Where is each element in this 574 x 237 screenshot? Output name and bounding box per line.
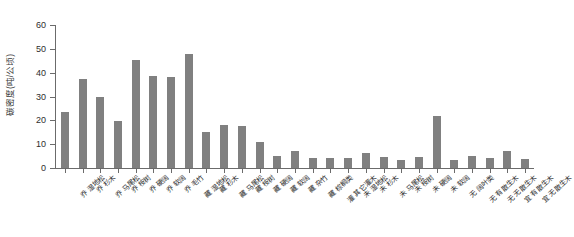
x-axis-tick-mark	[401, 169, 402, 173]
bar	[326, 158, 334, 168]
x-axis-tick-mark	[437, 169, 438, 173]
bar	[220, 125, 228, 168]
y-axis-tick-label: 20	[36, 115, 46, 125]
x-axis-tick-mark	[277, 169, 278, 173]
y-axis-tick-labels: 0102030405060	[18, 20, 50, 172]
bar	[309, 158, 317, 168]
x-axis-tick-mark	[384, 169, 385, 173]
bar	[202, 132, 210, 168]
bar	[380, 157, 388, 168]
x-axis-tick-mark	[295, 169, 296, 173]
x-axis-tick-mark	[490, 169, 491, 173]
y-axis-tick-mark	[50, 168, 55, 169]
bar	[415, 157, 423, 168]
y-axis-title: 碳密度(吨/公顷)	[0, 0, 18, 170]
x-axis-tick-mark	[224, 169, 225, 173]
y-axis-tick-mark	[50, 97, 55, 98]
x-axis-tick-mark	[366, 169, 367, 173]
bar	[238, 126, 246, 168]
bar	[132, 60, 140, 168]
y-axis-tick-mark	[50, 73, 55, 74]
x-axis-tick-labels: 乔 湿地松乔 杉木乔 马尾松乔 桉树乔 硬阔乔 软阔乔 毛竹藏 湿地松藏 杉木藏…	[0, 170, 542, 237]
x-axis-tick-mark	[419, 169, 420, 173]
y-axis-tick-mark	[50, 25, 55, 26]
y-axis-title-text: 碳密度(吨/公顷)	[3, 54, 15, 116]
y-axis-tick-label: 60	[36, 20, 46, 30]
bar	[185, 54, 193, 168]
x-axis-tick-label: 未 硬阔	[430, 172, 454, 195]
bar	[362, 153, 370, 168]
x-axis-tick-mark	[206, 169, 207, 173]
y-axis-tick-mark	[50, 49, 55, 50]
x-axis-tick-mark	[136, 169, 137, 173]
x-axis-tick-mark	[118, 169, 119, 173]
bar	[114, 121, 122, 168]
x-axis-tick-mark	[507, 169, 508, 173]
y-axis-tick-label: 30	[36, 92, 46, 102]
bar	[433, 116, 441, 168]
x-axis-tick-mark	[100, 169, 101, 173]
x-axis-tick-mark	[348, 169, 349, 173]
bar	[521, 159, 529, 168]
x-axis-tick-mark	[171, 169, 172, 173]
bar	[79, 79, 87, 168]
bar	[256, 142, 264, 168]
x-axis-tick-mark	[83, 169, 84, 173]
y-axis-tick-label: 10	[36, 139, 46, 149]
x-axis-tick-mark	[242, 169, 243, 173]
y-axis-tick-label: 40	[36, 68, 46, 78]
y-axis-tick-mark	[50, 120, 55, 121]
bar	[486, 158, 494, 168]
x-axis-tick-mark	[65, 169, 66, 173]
bar	[273, 156, 281, 168]
x-axis-tick-mark	[260, 169, 261, 173]
bar	[167, 77, 175, 168]
x-axis-tick-mark	[330, 169, 331, 173]
y-axis-tick-mark	[50, 144, 55, 145]
bar	[397, 160, 405, 168]
bar	[468, 156, 476, 168]
y-axis-tick-label: 50	[36, 44, 46, 54]
bar	[291, 151, 299, 168]
bar	[96, 97, 104, 169]
bar	[450, 160, 458, 168]
x-axis-tick-mark	[313, 169, 314, 173]
x-axis-tick-mark	[525, 169, 526, 173]
x-axis-tick-mark	[153, 169, 154, 173]
bar	[503, 151, 511, 168]
x-axis-tick-mark	[472, 169, 473, 173]
x-axis-tick-mark	[454, 169, 455, 173]
plot-area	[56, 25, 534, 168]
x-axis-tick-mark	[189, 169, 190, 173]
bar	[149, 76, 157, 168]
bar	[344, 158, 352, 168]
bar	[61, 112, 69, 168]
